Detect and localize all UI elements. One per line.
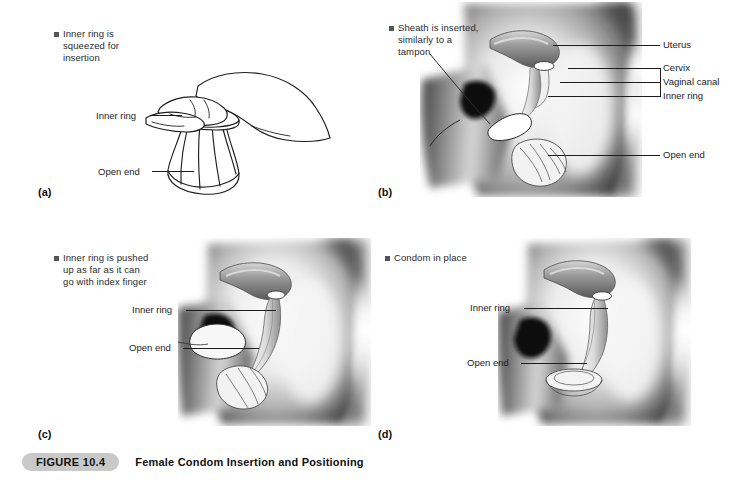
panel-d-label-open-end: Open end [467,357,509,368]
panel-b-leader-open-end [548,155,660,156]
panel-letter-b: (b) [378,186,392,198]
panel-b-label-cervix: Cervix [663,62,690,73]
panel-c-illustration [178,238,388,426]
panel-d-leader-inner-ring [524,308,608,309]
panel-b-note: Sheath is inserted, similarly to a tampo… [389,22,497,59]
panel-b-leader-vaginal-canal [560,82,660,83]
panel-d-label-inner-ring: Inner ring [470,302,510,313]
panel-c-note-text: Inner ring is pushed up as far as it can… [63,252,148,289]
panel-b-leader-bracket [660,68,661,97]
figure-title: Female Condom Insertion and Positioning [135,456,363,468]
panel-letter-d: (d) [378,428,392,440]
panel-c-leader-inner-ring [186,310,276,311]
panel-b-leader-cervix [568,68,660,69]
panel-a-note-text: Inner ring is squeezed for insertion [63,28,119,65]
panel-d-note-text: Condom in place [394,252,467,264]
figure-container: Inner ring is squeezed for insertion Inn… [0,0,739,484]
panel-c-label-inner-ring: Inner ring [132,304,172,315]
panel-a-label-open-end: Open end [98,166,140,177]
panel-a-leader-open-end [152,171,194,172]
panel-b-leader-uterus [553,45,660,46]
panel-letter-c: (c) [38,428,51,440]
panel-b-label-vaginal-canal: Vaginal canal [663,76,719,87]
panel-d-illustration [498,238,708,426]
panel-a-illustration [140,70,340,200]
panel-b-label-inner-ring: Inner ring [663,90,703,101]
panel-letter-a: (a) [38,186,51,198]
panel-b-label-uterus: Uterus [663,39,691,50]
bullet-square-icon [389,26,394,31]
panel-d-note: Condom in place [385,252,505,264]
panel-c-leader-open-end [183,348,259,349]
bullet-square-icon [54,32,59,37]
bullet-square-icon [385,256,390,261]
bullet-square-icon [54,256,59,261]
panel-b-label-open-end: Open end [663,149,705,160]
figure-caption: FIGURE 10.4 Female Condom Insertion and … [22,452,364,472]
panel-a-label-inner-ring: Inner ring [96,110,136,121]
panel-d-leader-open-end [521,363,587,364]
figure-number-badge: FIGURE 10.4 [22,453,119,471]
panel-a-leader-inner-ring [150,115,182,116]
panel-c-note: Inner ring is pushed up as far as it can… [54,252,176,289]
panel-c-label-open-end: Open end [129,342,171,353]
panel-a-note: Inner ring is squeezed for insertion [54,28,154,65]
panel-b-leader-inner-ring [548,96,660,97]
panel-b-note-text: Sheath is inserted, similarly to a tampo… [398,22,479,59]
